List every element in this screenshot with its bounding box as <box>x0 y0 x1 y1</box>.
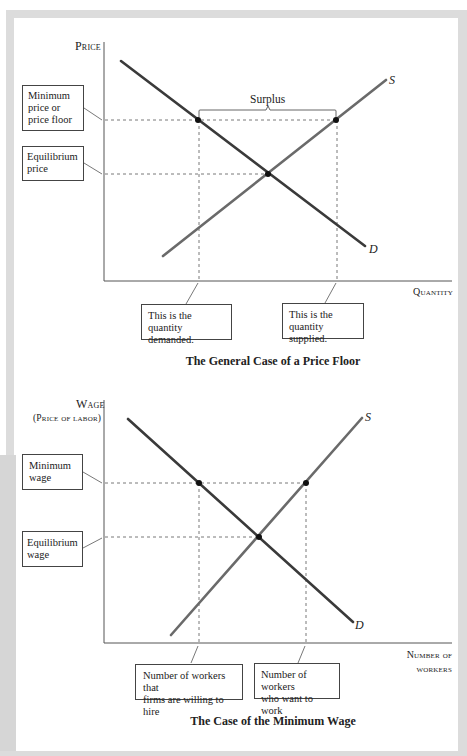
chart1-title: The General Case of a Price Floor <box>150 354 396 369</box>
label-line: Equilibrium <box>27 151 79 163</box>
floor-supply-point <box>333 117 339 123</box>
equilibrium-wage-label-box: Equilibrium wage <box>22 531 83 567</box>
note-line: Number of workers <box>261 669 333 693</box>
chart-minimum-wage <box>83 400 452 663</box>
label-line: price floor <box>28 114 78 126</box>
qs-leader <box>325 283 336 303</box>
equilibrium-price-label-box: Equilibrium price <box>22 146 84 181</box>
axis-label-line: workers <box>405 662 452 676</box>
label-line: wage <box>27 549 78 561</box>
equilibrium-wage-leader <box>83 538 102 548</box>
note-line: quantity demanded. <box>148 322 225 346</box>
labor-demanded-leader <box>191 646 198 663</box>
label-line: price <box>27 163 79 175</box>
floor-demand-point <box>195 117 201 123</box>
chart2-title: The Case of the Minimum Wage <box>160 714 386 729</box>
price-axis-label: Price <box>75 40 101 52</box>
quantity-axis-label: Quantity <box>413 286 453 298</box>
equilibrium-leader <box>84 163 102 174</box>
workers-hired-note: Number of workers that firms are willing… <box>135 664 243 700</box>
floor-leader <box>84 108 102 120</box>
quantity-demanded-note: This is the quantity demanded. <box>141 304 232 340</box>
surplus-bracket <box>199 106 336 117</box>
workers-wanting-work-note: Number of workers who want to work <box>254 663 340 699</box>
wage-equilibrium-point <box>256 534 262 540</box>
label-line: price or <box>28 102 78 114</box>
label-line: wage <box>29 472 76 484</box>
qd-leader <box>186 283 198 304</box>
demand-curve <box>121 61 365 246</box>
wage-axis-label: Wage <box>76 398 105 410</box>
note-line: quantity supplied. <box>289 321 357 345</box>
supply-label: S <box>389 73 395 88</box>
note-line: This is the <box>148 310 225 322</box>
price-floor-label-box: Minimum price or price floor <box>22 85 84 131</box>
minimum-wage-label-box: Minimum wage <box>22 454 83 490</box>
min-wage-demand-point <box>196 480 202 486</box>
equilibrium-point <box>265 171 271 177</box>
workers-axis-label: Number of workers <box>405 648 452 676</box>
demand-label: D <box>369 242 378 257</box>
wage-axis-sublabel: (Price of labor) <box>33 412 101 424</box>
labor-supplied-leader <box>298 646 305 663</box>
label-line: Minimum <box>29 460 76 472</box>
label-line: Minimum <box>28 90 78 102</box>
labor-supply-curve <box>171 418 362 635</box>
surplus-label: Surplus <box>250 93 285 105</box>
min-wage-supply-point <box>303 480 309 486</box>
labor-supply-label: S <box>365 410 371 425</box>
axis-label-line: Number of <box>405 648 452 662</box>
supply-curve <box>163 80 386 256</box>
labor-demand-curve <box>128 419 353 622</box>
labor-demand-label: D <box>355 618 364 633</box>
chart-price-floor <box>84 42 452 304</box>
label-line: Equilibrium <box>27 537 78 549</box>
note-line: This is the <box>289 309 357 321</box>
min-wage-leader <box>83 472 102 483</box>
quantity-supplied-note: This is the quantity supplied. <box>282 303 364 339</box>
note-line: Number of workers that <box>143 670 235 694</box>
